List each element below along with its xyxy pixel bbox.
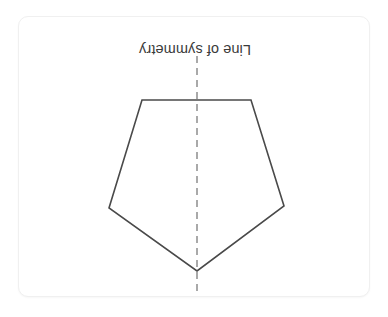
page-root: Line of symmetry (0, 0, 388, 317)
figure-stage: Line of symmetry (19, 17, 369, 296)
pentagon-shape (109, 100, 284, 271)
symmetry-figure-svg (19, 17, 370, 297)
line-of-symmetry-label: Line of symmetry (19, 41, 370, 59)
figure-card: Line of symmetry (18, 16, 370, 297)
